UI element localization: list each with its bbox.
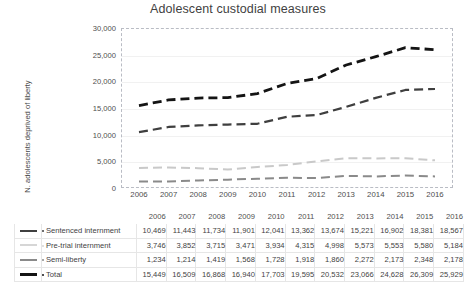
value-cell: 16,509 [166,267,196,282]
value-cell: 3,852 [166,238,196,253]
value-cell: 11,734 [196,224,226,239]
swatch-cell [15,210,42,224]
value-cell: 2,178 [434,253,464,268]
series-layer [121,28,453,188]
legend-swatch-cell [15,238,42,253]
value-cell: 5,580 [404,238,434,253]
series-label-cell: Sentenced internment [42,224,137,239]
y-tick-label: 15,000 [58,104,116,113]
value-cell: 18,567 [434,224,464,239]
value-cell: 5,573 [345,238,375,253]
value-cell: 10,469 [137,224,167,239]
value-cell: 11,443 [166,224,196,239]
plot-wrapper: N. adolescents deprived of liberty 05,00… [0,22,476,194]
legend-marker-icon [42,274,44,276]
value-cell: 1,728 [255,253,285,268]
data-table: 2006200720082009201020112012201320142015… [14,196,464,282]
year-header-cell: 2016 [434,210,464,224]
series-line [139,48,435,106]
value-cell: 4,315 [285,238,315,253]
legend-swatch-cell [15,267,42,282]
y-tick-label: 0 [58,184,116,193]
value-cell: 19,595 [285,267,315,282]
year-header-cell: 2009 [226,210,256,224]
value-cell: 1,214 [166,253,196,268]
legend-line-icon [15,253,41,267]
series-line [139,175,435,181]
legend-line-icon [15,239,41,253]
value-cell: 17,703 [255,267,285,282]
value-cell: 12,041 [255,224,285,239]
value-cell: 2,348 [404,253,434,268]
value-cell: 20,532 [315,267,345,282]
value-cell: 26,309 [404,267,434,282]
y-tick-label: 30,000 [58,24,116,33]
series-label-cell: Total [42,267,137,282]
legend-line-icon [15,268,41,282]
value-cell: 4,998 [315,238,345,253]
series-label-cell: Pre-trial internment [42,238,137,253]
year-header-cell: 2013 [345,210,375,224]
value-cell: 5,184 [434,238,464,253]
value-cell: 15,221 [345,224,375,239]
year-header-cell: 2007 [166,210,196,224]
value-cell: 2,173 [374,253,404,268]
legend-swatch-cell [15,253,42,268]
series-name-header [42,197,137,211]
table-header-row [15,197,464,211]
legend-marker-icon [42,245,44,247]
series-label-cell [42,210,137,224]
value-cell: 13,674 [315,224,345,239]
y-tick-label: 5,000 [58,157,116,166]
series-label-cell: Semi-liberty [42,253,137,268]
value-cell: 18,381 [404,224,434,239]
y-tick-label: 10,000 [58,130,116,139]
value-cell: 15,449 [137,267,167,282]
series-line [139,158,435,169]
value-cell: 13,362 [285,224,315,239]
table-row: Total15,44916,50916,86816,94017,70319,59… [15,267,464,282]
year-header-cell: 2008 [196,210,226,224]
year-header-cell: 2010 [255,210,285,224]
legend-swatch-cell [15,224,42,239]
value-cell: 1,234 [137,253,167,268]
value-cell: 1,568 [226,253,256,268]
value-cell: 16,940 [226,267,256,282]
legend-marker-icon [42,259,44,261]
year-header-cell: 2011 [285,210,315,224]
table-row: Semi-liberty1,2341,2141,4191,5681,7281,9… [15,253,464,268]
value-cell: 11,901 [226,224,256,239]
legend-line-icon [15,224,41,238]
value-cell: 3,934 [255,238,285,253]
value-cell: 25,929 [434,267,464,282]
year-header-cell: 2006 [137,210,167,224]
value-cell: 3,746 [137,238,167,253]
y-tick-label: 25,000 [58,50,116,59]
value-cell: 1,918 [285,253,315,268]
value-cell: 5,553 [374,238,404,253]
table-row: Pre-trial internment3,7463,8523,7153,471… [15,238,464,253]
table-row: Sentenced internment10,46911,44311,73411… [15,224,464,239]
value-cell: 2,272 [345,253,375,268]
table-year-header-row: 2006200720082009201020112012201320142015… [15,210,464,224]
swatch-header [15,197,42,211]
value-cell: 1,860 [315,253,345,268]
value-cell: 3,715 [196,238,226,253]
value-cell: 16,902 [374,224,404,239]
series-line [139,89,435,132]
value-cell: 23,066 [345,267,375,282]
value-cell: 24,628 [374,267,404,282]
y-tick-label: 20,000 [58,77,116,86]
value-cell: 1,419 [196,253,226,268]
legend-marker-icon [42,230,44,232]
year-header-cell: 2015 [404,210,434,224]
page-title: Adolescent custodial measures [0,2,476,16]
year-header-cell: 2012 [315,210,345,224]
year-header-cell: 2014 [374,210,404,224]
value-cell: 3,471 [226,238,256,253]
value-cell: 16,868 [196,267,226,282]
